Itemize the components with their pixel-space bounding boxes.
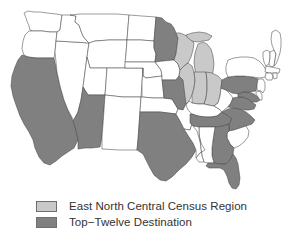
legend-label-east-north-central: East North Central Census Region bbox=[69, 200, 247, 213]
state-colorado bbox=[105, 68, 143, 97]
us-states-map bbox=[0, 0, 283, 196]
legend-swatch-east-north-central bbox=[36, 201, 57, 212]
state-south-dakota bbox=[125, 40, 156, 62]
map-canvas bbox=[0, 0, 283, 196]
state-north-dakota bbox=[127, 15, 156, 41]
us-choropleth-figure: East North Central Census Region Top−Twe… bbox=[0, 0, 283, 252]
legend-item-top-twelve: Top−Twelve Destination bbox=[36, 216, 247, 229]
state-new-mexico bbox=[102, 95, 141, 150]
state-massachusetts bbox=[265, 66, 280, 73]
state-new-jersey bbox=[257, 79, 265, 93]
state-rhode-island bbox=[273, 73, 277, 79]
legend-item-east-north-central: East North Central Census Region bbox=[36, 200, 247, 213]
legend-swatch-top-twelve bbox=[36, 217, 57, 228]
state-connecticut bbox=[265, 73, 273, 80]
state-washington bbox=[24, 11, 62, 32]
state-new-york bbox=[226, 57, 268, 78]
state-minnesota bbox=[154, 17, 178, 62]
state-oregon bbox=[22, 31, 57, 58]
legend-label-top-twelve: Top−Twelve Destination bbox=[69, 216, 192, 229]
map-legend: East North Central Census Region Top−Twe… bbox=[36, 200, 247, 229]
state-wyoming bbox=[87, 40, 127, 68]
